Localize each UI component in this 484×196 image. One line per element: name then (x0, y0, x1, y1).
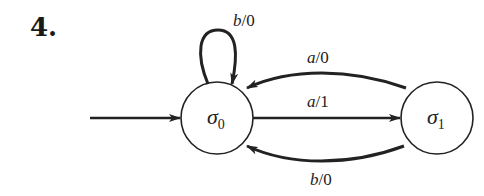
arc-s1-to-s0-bottom (247, 146, 404, 161)
state-diagram: σ0 σ1 b/0 a/0 a/1 b/0 (0, 0, 484, 196)
self-loop-label: b/0 (233, 11, 255, 30)
arc-s1-to-s0-top (247, 73, 406, 88)
self-loop-arrow (201, 30, 236, 84)
arc-top-label: a/0 (307, 48, 329, 67)
state-sigma-1: σ1 (401, 82, 473, 154)
arc-bottom-label: b/0 (310, 170, 332, 189)
state-sigma-0: σ0 (181, 82, 253, 154)
arc-middle-label: a/1 (307, 92, 329, 111)
